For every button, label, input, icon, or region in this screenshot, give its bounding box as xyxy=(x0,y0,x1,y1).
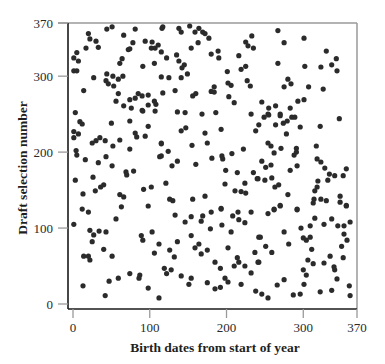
data-point xyxy=(196,26,201,31)
data-point xyxy=(269,250,274,255)
data-point xyxy=(308,223,313,228)
data-point xyxy=(205,280,210,285)
data-point xyxy=(213,110,218,115)
data-point xyxy=(232,100,237,105)
data-point xyxy=(258,235,263,240)
data-point xyxy=(252,250,257,255)
data-point xyxy=(159,74,164,79)
data-point xyxy=(71,129,76,134)
data-point xyxy=(335,223,340,228)
data-point xyxy=(225,245,230,250)
data-point xyxy=(140,238,145,243)
data-point xyxy=(124,172,129,177)
data-point xyxy=(185,71,190,76)
data-point xyxy=(104,27,109,32)
data-point xyxy=(265,211,270,216)
data-point xyxy=(235,170,240,175)
data-point xyxy=(205,140,210,145)
data-point xyxy=(285,118,290,123)
data-point xyxy=(295,163,300,168)
data-point xyxy=(322,166,327,171)
data-point xyxy=(229,151,234,156)
data-point xyxy=(220,156,225,161)
data-point xyxy=(193,162,198,167)
data-point xyxy=(76,131,81,136)
data-point xyxy=(209,210,214,215)
data-point xyxy=(311,200,316,205)
data-point xyxy=(199,251,204,256)
data-point xyxy=(243,64,248,69)
data-point xyxy=(338,194,343,199)
data-point xyxy=(338,200,343,205)
data-point xyxy=(74,68,79,73)
data-point xyxy=(259,292,264,297)
data-point xyxy=(140,64,145,69)
data-point xyxy=(110,254,115,259)
data-point xyxy=(288,81,293,86)
data-point xyxy=(301,36,306,41)
data-point xyxy=(304,238,309,243)
data-point xyxy=(74,153,79,158)
data-point xyxy=(200,213,205,218)
data-point xyxy=(278,146,283,151)
data-point xyxy=(284,131,289,136)
data-point xyxy=(159,153,164,158)
data-point xyxy=(216,49,221,54)
data-point xyxy=(192,245,197,250)
data-point xyxy=(81,254,86,259)
data-point xyxy=(179,75,184,80)
data-point xyxy=(127,97,132,102)
data-point xyxy=(243,191,248,196)
data-point xyxy=(86,31,91,36)
data-point xyxy=(110,143,115,148)
data-point xyxy=(236,53,241,58)
y-tick-label: 200 xyxy=(34,145,54,160)
data-point xyxy=(301,267,306,272)
data-point xyxy=(127,118,132,123)
data-point xyxy=(275,28,280,33)
data-point xyxy=(327,172,332,177)
data-point xyxy=(219,207,224,212)
data-point xyxy=(251,170,256,175)
data-point xyxy=(103,138,108,143)
data-point xyxy=(117,61,122,66)
data-point xyxy=(110,24,115,29)
data-point xyxy=(81,88,86,93)
data-point xyxy=(275,282,280,287)
data-point xyxy=(329,288,334,293)
data-point xyxy=(90,239,95,244)
data-point xyxy=(321,222,326,227)
y-axis-ticks: 0100200300370 xyxy=(34,16,69,312)
data-point xyxy=(143,39,148,44)
data-point xyxy=(315,178,320,183)
data-point xyxy=(159,140,164,145)
data-point xyxy=(298,226,303,231)
data-point xyxy=(253,289,258,294)
data-point xyxy=(179,29,184,34)
data-point xyxy=(329,216,334,221)
data-point xyxy=(282,84,287,89)
data-point xyxy=(87,228,92,233)
data-point xyxy=(153,109,158,114)
data-point xyxy=(103,229,108,234)
data-point xyxy=(332,267,337,272)
data-point xyxy=(291,292,296,297)
scatter-chart: 0100200300370 0100200300370 Birth dates … xyxy=(0,0,385,364)
data-point xyxy=(249,112,254,117)
data-point xyxy=(160,24,165,29)
data-point xyxy=(273,122,278,127)
data-point xyxy=(183,110,188,115)
y-tick-label: 100 xyxy=(34,221,54,236)
data-point xyxy=(202,194,207,199)
data-point xyxy=(143,134,148,139)
data-point xyxy=(321,260,326,265)
data-point xyxy=(146,124,151,129)
data-point xyxy=(91,75,96,80)
data-point xyxy=(104,71,109,76)
data-point xyxy=(324,49,329,54)
data-point xyxy=(74,50,79,55)
data-point xyxy=(173,213,178,218)
data-point xyxy=(183,219,188,224)
data-point xyxy=(216,55,221,60)
data-point xyxy=(101,247,106,252)
